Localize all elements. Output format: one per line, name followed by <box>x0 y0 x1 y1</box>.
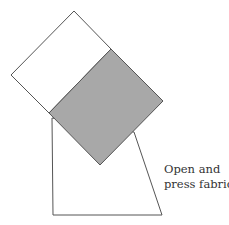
caption: Open and press fabric. <box>164 162 229 192</box>
caption-line-2: press fabric. <box>164 177 229 192</box>
caption-line-1: Open and <box>164 162 229 177</box>
